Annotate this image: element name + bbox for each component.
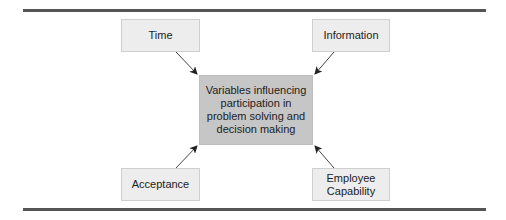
arrow-time-to-center xyxy=(176,52,197,74)
arrow-information-to-center xyxy=(315,52,334,74)
arrows-layer xyxy=(0,0,506,220)
arrow-acceptance-to-center xyxy=(176,146,197,168)
bottom-rule xyxy=(23,208,486,211)
arrow-employee-capability-to-center xyxy=(315,146,334,168)
